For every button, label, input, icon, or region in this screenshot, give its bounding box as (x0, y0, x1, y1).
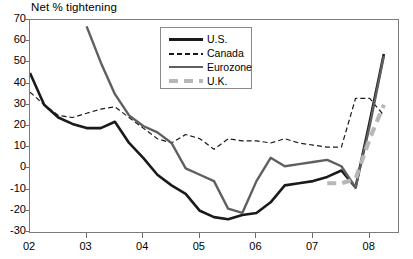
y-axis-label: 30 (0, 97, 26, 109)
y-axis-label: 70 (0, 12, 26, 24)
y-axis-label: 20 (0, 118, 26, 130)
y-axis-label: 60 (0, 33, 26, 45)
legend-item-canada: Canada (167, 46, 249, 60)
x-axis-label: 08 (356, 240, 382, 252)
x-axis-label: 03 (73, 240, 99, 252)
legend-item-uk: U.K. (167, 74, 249, 88)
x-axis-label: 05 (186, 240, 212, 252)
x-axis-tick (142, 233, 143, 238)
chart-container: Net % tightening 706050403020100-10-20-3… (0, 0, 413, 259)
y-axis-label: 50 (0, 54, 26, 66)
chart-legend: U.S.CanadaEurozoneU.K. (160, 27, 252, 89)
y-axis-label: 0 (0, 160, 26, 172)
x-axis-label: 02 (16, 240, 42, 252)
x-axis-label: 07 (299, 240, 325, 252)
x-axis-tick (369, 233, 370, 238)
y-axis-label: -30 (0, 224, 26, 236)
y-axis-label: 40 (0, 76, 26, 88)
legend-swatch (169, 66, 203, 68)
legend-label: Canada (207, 46, 244, 60)
legend-swatch (169, 38, 203, 41)
x-axis-tick (86, 233, 87, 238)
x-axis-label: 06 (242, 240, 268, 252)
legend-swatch (169, 79, 203, 83)
chart-title: Net % tightening (31, 1, 117, 13)
x-axis-tick (312, 233, 313, 238)
x-axis-label: 04 (129, 240, 155, 252)
legend-swatch (169, 53, 203, 55)
series-line-uk (327, 105, 384, 183)
legend-label: U.K. (207, 74, 227, 88)
legend-label: U.S. (207, 32, 227, 46)
x-axis-tick (199, 233, 200, 238)
legend-item-us: U.S. (167, 32, 249, 46)
x-axis-tick (255, 233, 256, 238)
y-axis-label: -20 (0, 203, 26, 215)
y-axis-label: 10 (0, 139, 26, 151)
y-axis-label: -10 (0, 182, 26, 194)
legend-label: Eurozone (207, 60, 252, 74)
legend-item-eurozone: Eurozone (167, 60, 249, 74)
series-line-canada (30, 92, 384, 149)
